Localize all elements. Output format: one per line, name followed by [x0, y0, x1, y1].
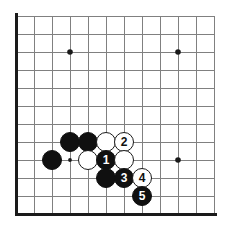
- stone-white: [78, 150, 98, 170]
- stone-black-move-3: 3: [114, 168, 134, 188]
- stone-black: [96, 168, 116, 188]
- stone-white-move-4: 4: [132, 168, 152, 188]
- stone-white: [96, 132, 116, 152]
- stone-black-move-1: 1: [96, 150, 116, 170]
- stone-move-number: 3: [121, 172, 127, 184]
- stone-black: [78, 132, 98, 152]
- stone-move-number: 5: [139, 190, 145, 202]
- stone-black: [42, 150, 62, 170]
- stone-black-move-5: 5: [132, 186, 152, 206]
- stone-move-number: 1: [103, 154, 109, 166]
- stone-move-number: 4: [139, 172, 145, 184]
- go-board-diagram: 21345: [0, 0, 241, 237]
- stone-move-number: 2: [121, 136, 127, 148]
- stone-white-move-2: 2: [114, 132, 134, 152]
- stone-white: [114, 150, 134, 170]
- stone-black: [60, 132, 80, 152]
- stone-layer: 21345: [0, 0, 241, 237]
